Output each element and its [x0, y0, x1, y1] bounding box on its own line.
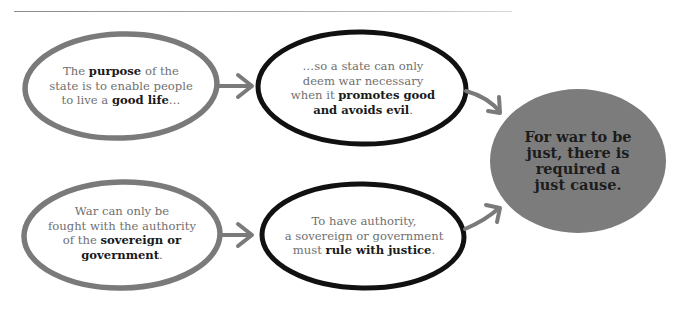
node-line: War can only be [37, 204, 207, 219]
node-line: of the sovereign or [37, 233, 207, 248]
arrow-authority-to-justice [222, 224, 252, 246]
node-purpose: The purpose of the state is to enable pe… [40, 64, 202, 108]
node-line: and avoids evil. [280, 103, 446, 118]
node-line: government. [37, 248, 207, 263]
node-line: when it promotes good [280, 88, 446, 103]
node-line: The purpose of the [40, 64, 202, 79]
conclusion-line: required a [513, 161, 643, 177]
arrow-promotes-good-to-conclusion [466, 91, 500, 113]
conclusion-line: just cause. [513, 177, 643, 193]
node-line: must rule with justice. [275, 243, 453, 258]
conclusion-line: For war to be [513, 129, 643, 145]
node-promotes-good: …so a state can only deem war necessary … [280, 59, 446, 117]
node-authority: War can only be fought with the authorit… [37, 204, 207, 262]
arrow-justice-to-conclusion [465, 205, 500, 229]
node-line: fought with the authority [37, 219, 207, 234]
node-line: to live a good life… [40, 93, 202, 108]
node-justice: To have authority, a sovereign or govern… [275, 214, 453, 258]
conclusion-node: For war to be just, there is required a … [513, 129, 643, 193]
node-line: To have authority, [275, 214, 453, 229]
node-line: …so a state can only [280, 59, 446, 74]
node-line: deem war necessary [280, 74, 446, 89]
arrow-purpose-to-promotes-good [219, 75, 252, 97]
conclusion-line: just, there is [513, 145, 643, 161]
node-line: a sovereign or government [275, 229, 453, 244]
node-line: state is to enable people [40, 79, 202, 94]
